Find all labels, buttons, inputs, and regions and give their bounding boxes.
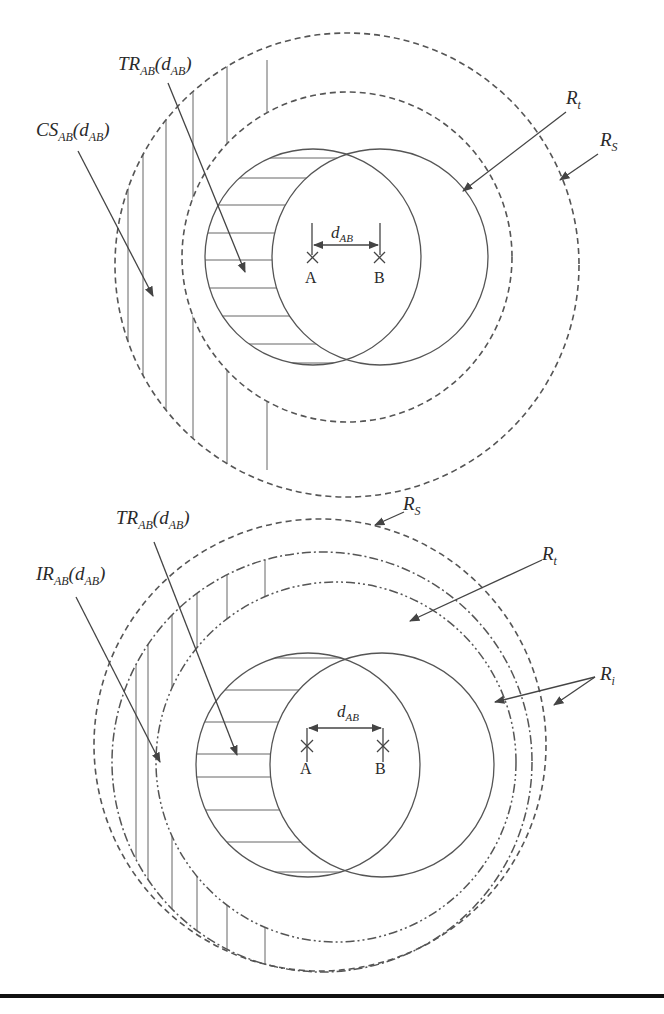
bottom-rule [0,994,664,998]
cs-leader [78,151,153,296]
svg-text:B: B [374,269,385,286]
rt-label: Rt [565,87,582,112]
rt-leader-bottom [410,560,542,621]
svg-text:A: A [300,760,312,777]
svg-text:B: B [375,760,386,777]
rs-label-bottom: RS [402,493,421,518]
rt-label-bottom: Rt [541,543,558,568]
ri-label: Ri [599,663,615,688]
rt-leader [463,112,566,191]
tr-label-bottom: TRAB(dAB) [116,507,190,532]
svg-text:A: A [305,269,317,286]
cs-label: CSAB(dAB) [36,119,110,144]
rs-label: RS [599,129,618,154]
ir-leader [76,597,160,762]
rs-leader-bottom [375,512,404,525]
tr-leader [168,83,245,272]
figure-bottom: dAB A B TRAB(dAB) IRAB(dAB) RS Rt Ri [35,493,615,990]
ri-leader-outer [554,677,595,705]
cs-region-hatch [128,60,267,470]
diagram-canvas: dAB A B TRAB(dAB) CSAB(dAB) Rt RS [0,0,664,1014]
rs-leader [560,154,598,180]
figure-top: dAB A B TRAB(dAB) CSAB(dAB) Rt RS [36,33,618,497]
ir-label: IRAB(dAB) [35,563,105,588]
ri-leader-inner [495,677,595,702]
tr-label: TRAB(dAB) [118,53,192,78]
